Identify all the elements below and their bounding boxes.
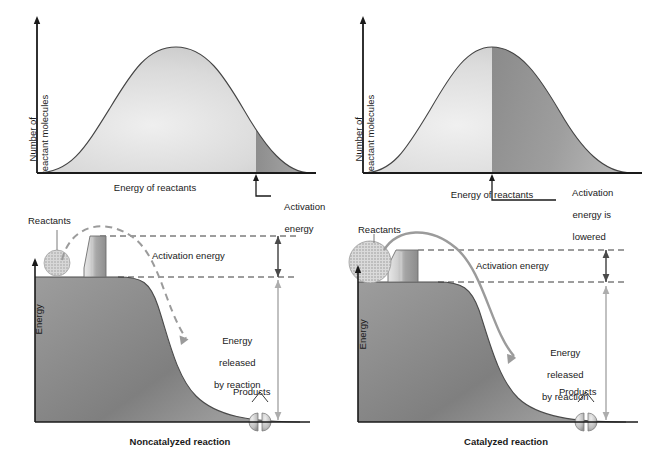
- y-axis-arrowhead: [34, 16, 40, 24]
- panel-top-right-distribution: Number of reactant molecules: [326, 0, 652, 210]
- caption-bottom-right: Catalyzed reaction: [386, 436, 626, 447]
- reactants-molecule-cluster: [44, 250, 70, 276]
- released-measure-arrow-down: [275, 412, 282, 420]
- activation-measure-arrow-up: [275, 236, 282, 244]
- y-axis-arrowhead: [360, 16, 366, 24]
- reaction-path-arrowhead: [180, 336, 189, 346]
- energy-axis-text: Energy: [357, 319, 368, 349]
- released-measure-arrow-up: [275, 280, 282, 288]
- y-axis-label-line2: reactant molecules: [365, 95, 376, 175]
- activation-measure-arrow-down: [275, 269, 282, 277]
- energy-released-label-right: Energy released by reaction: [524, 336, 596, 413]
- products-label-right: Products: [559, 386, 597, 397]
- released-line1: Energy: [222, 335, 252, 346]
- x-axis-label-top-left: Energy of reactants: [85, 182, 225, 193]
- activation-pointer-arrowhead: [489, 174, 495, 181]
- released-line2: released: [219, 357, 255, 368]
- distribution-area-shaded: [492, 40, 642, 180]
- y-axis-arrowhead: [32, 258, 38, 266]
- y-axis-label-bottom-right: Energy: [346, 319, 379, 360]
- y-axis-label-top-left-2: reactant molecules: [28, 95, 61, 185]
- activation-measure-arrow-up: [603, 250, 610, 258]
- activation-energy-label-left: Activation energy: [152, 250, 225, 261]
- x-axis-label-top-right: Energy of reactants: [422, 189, 562, 200]
- distribution-area-shaded: [256, 40, 316, 180]
- activation-callout-elbow: [256, 190, 271, 196]
- panel-top-left-distribution: Number of reactant molecules: [0, 0, 326, 210]
- caption-bottom-left: Noncatalyzed reaction: [60, 436, 300, 447]
- energy-axis-text: Energy: [33, 304, 44, 334]
- activation-energy-label-right: Activation energy: [476, 260, 549, 271]
- activation-energy-barrier: [84, 236, 106, 277]
- released-line1: Energy: [550, 347, 580, 358]
- products-label-left: Products: [233, 386, 271, 397]
- y-axis-label-line2: reactant molecules: [39, 95, 50, 175]
- released-measure-arrow-down: [603, 412, 610, 420]
- panel-bottom-left-energy-profile: Reactants Energy: [0, 210, 326, 458]
- y-axis-label-top-right-2: reactant molecules: [354, 95, 387, 185]
- released-line2: released: [547, 369, 583, 380]
- activation-energy-barrier: [388, 250, 418, 282]
- activation-measure-arrow-down: [603, 274, 610, 282]
- released-measure-arrow-up: [603, 286, 610, 294]
- y-axis-label-bottom-left: Energy: [22, 304, 55, 345]
- callout-line1: Activation: [572, 187, 613, 198]
- panel-bottom-right-energy-profile: Reactants Energy: [326, 210, 652, 458]
- reaction-path-arrowhead: [507, 354, 516, 364]
- activation-pointer-arrowhead: [253, 174, 259, 181]
- reactants-label-right: Reactants: [358, 224, 401, 235]
- reactants-label-left: Reactants: [28, 215, 71, 226]
